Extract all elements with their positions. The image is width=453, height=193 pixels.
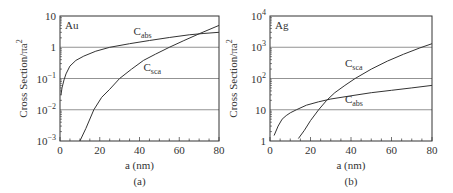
x-tick-label: 40: [346, 144, 358, 156]
y-tick-label: 10: [255, 104, 267, 116]
x-tick-label: 20: [94, 144, 106, 156]
x-tick-label: 60: [386, 144, 398, 156]
x-tick-label: 0: [57, 144, 63, 156]
panel-b-ag: 020406080110102103104Aga (nm)(b)Cross Se…: [225, 8, 438, 188]
curve-label-cabs: Cabs: [134, 25, 152, 40]
panel-label: (a): [133, 175, 146, 188]
x-axis-label: a (nm): [125, 159, 154, 172]
y-tick-label: 10: [45, 10, 57, 22]
x-tick-label: 60: [174, 144, 186, 156]
x-axis-label: a (nm): [336, 159, 365, 172]
y-axis-label: Cross Section/πa2: [225, 39, 239, 117]
y-tick-label: 10−1: [36, 71, 56, 85]
curve-c-sca: [298, 44, 432, 139]
y-tick-label: 10−3: [36, 133, 56, 147]
curve-c-sca: [80, 25, 219, 141]
panel-label: (b): [345, 175, 358, 188]
y-tick-label: 103: [251, 39, 266, 53]
y-tick-label: 104: [251, 8, 266, 22]
y-tick-label: 1: [51, 41, 57, 53]
x-tick-label: 80: [427, 144, 439, 156]
x-tick-label: 40: [134, 144, 146, 156]
curve-label-csca: Csca: [143, 61, 161, 76]
y-tick-label: 10−2: [36, 102, 56, 116]
x-tick-label: 80: [214, 144, 226, 156]
panel-title: Ag: [275, 19, 289, 31]
y-tick-label: 1: [261, 135, 267, 147]
panel-title: Au: [65, 19, 79, 31]
curve-c-abs: [274, 85, 432, 135]
y-axis-label: Cross Section/πa2: [15, 39, 29, 117]
chart-figure: 02040608010−310−210−1110Aua (nm)(a)Cross…: [0, 0, 453, 193]
panel-a-au: 02040608010−310−210−1110Aua (nm)(a)Cross…: [15, 10, 225, 188]
y-tick-label: 102: [251, 71, 266, 85]
curve-label-csca: Csca: [345, 57, 363, 72]
x-tick-label: 0: [267, 144, 273, 156]
x-tick-label: 20: [305, 144, 317, 156]
